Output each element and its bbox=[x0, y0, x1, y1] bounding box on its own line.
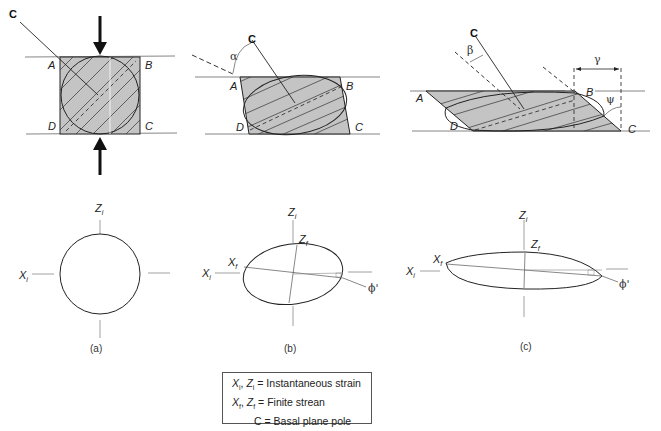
corner-b: B bbox=[586, 86, 593, 98]
corner-c: C bbox=[145, 120, 153, 132]
legend-box: Xi, Zi = Instantaneous strain Xf, Zf = F… bbox=[222, 372, 372, 424]
svg-text:Xi: Xi bbox=[201, 267, 211, 281]
svg-text:Zf: Zf bbox=[530, 238, 541, 252]
pole-label-c: C bbox=[470, 27, 478, 39]
angle-beta-label: β bbox=[467, 44, 473, 57]
corner-c: C bbox=[355, 121, 363, 133]
panel-a-top: C A B C D bbox=[9, 8, 177, 175]
panel-b-top: C α A B C D bbox=[192, 33, 390, 145]
strain-diagram: C A B C D C bbox=[0, 0, 661, 431]
caption-c: (c) bbox=[520, 341, 532, 352]
corner-a: A bbox=[415, 92, 423, 104]
panel-c-top: C β γ ψ A B C D bbox=[410, 27, 650, 138]
angle-psi-label: ψ bbox=[606, 93, 615, 106]
corner-d: D bbox=[48, 120, 56, 132]
phi-label-b: ϕ' bbox=[368, 282, 379, 295]
corner-c: C bbox=[628, 123, 636, 135]
legend-line-instantaneous: Xi, Zi = Instantaneous strain bbox=[232, 376, 371, 395]
panel-b-strain: Zi Zf Xf Xi ϕ' (b) bbox=[201, 206, 379, 354]
corner-b: B bbox=[145, 59, 152, 71]
pole-label-a: C bbox=[9, 8, 17, 20]
corner-b: B bbox=[346, 80, 353, 92]
corner-d: D bbox=[236, 121, 244, 133]
legend-line-finite: Xf, Zf = Finite strean bbox=[232, 395, 371, 414]
svg-text:Xi: Xi bbox=[405, 265, 415, 279]
panel-a-strain: Zi Xi (a) bbox=[18, 202, 170, 354]
phi-label-c: ϕ' bbox=[619, 278, 630, 291]
angle-alpha-label: α bbox=[230, 50, 238, 63]
corner-a: A bbox=[229, 80, 237, 92]
svg-text:Xf: Xf bbox=[432, 253, 443, 267]
corner-d: D bbox=[450, 120, 458, 132]
pole-label-b: C bbox=[248, 33, 256, 45]
svg-text:Zi: Zi bbox=[94, 202, 104, 216]
corner-a: A bbox=[47, 59, 55, 71]
panel-c-strain: Zi Zf Xf Xi ϕ' (c) bbox=[405, 209, 630, 352]
svg-text:Xf: Xf bbox=[227, 256, 238, 270]
compression-arrow-down-icon bbox=[93, 16, 107, 55]
compression-arrow-up-icon bbox=[93, 137, 107, 175]
caption-b: (b) bbox=[284, 343, 296, 354]
legend-line-pole: C = Basal plane pole bbox=[232, 414, 371, 428]
angle-gamma-label: γ bbox=[594, 53, 601, 66]
caption-a: (a) bbox=[90, 343, 102, 354]
svg-text:Zi: Zi bbox=[287, 206, 297, 220]
svg-text:Xi: Xi bbox=[18, 269, 28, 283]
svg-text:Zf: Zf bbox=[298, 233, 309, 247]
svg-text:Zi: Zi bbox=[518, 209, 528, 223]
